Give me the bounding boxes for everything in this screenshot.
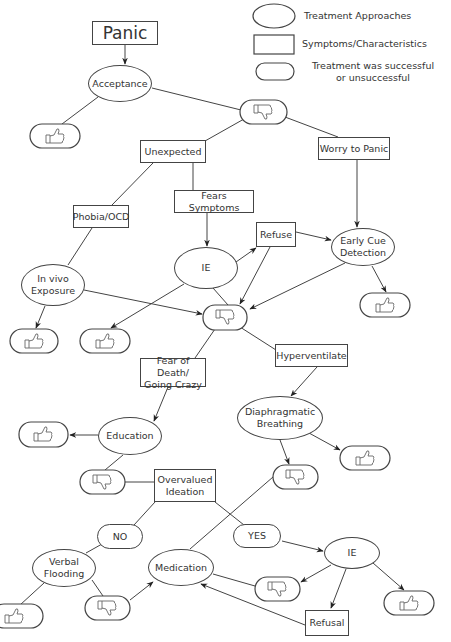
outcome-verbal-up bbox=[0, 604, 43, 628]
edge-ie-up bbox=[111, 284, 184, 328]
node-overvalued-ideation: Overvalued Ideation bbox=[154, 469, 216, 502]
node-refusal: Refusal bbox=[305, 610, 349, 636]
legend-label-symptoms: Symptoms/Characteristics bbox=[302, 38, 427, 50]
node-fears-symptoms: Fears Symptoms bbox=[174, 190, 254, 213]
outcome-acc-up bbox=[30, 124, 80, 148]
legend-ellipse-shape bbox=[253, 4, 295, 28]
edge-ie-middown bbox=[213, 288, 228, 305]
legend-rectangle-shape bbox=[254, 35, 294, 54]
node-yes: YES bbox=[233, 524, 281, 548]
edge-verbal-down bbox=[92, 580, 103, 596]
edge-verbal-up bbox=[20, 583, 44, 605]
outcome-acc-down bbox=[240, 100, 287, 124]
node-no: NO bbox=[97, 524, 143, 549]
node-refuse: Refuse bbox=[256, 222, 296, 247]
edge-acceptance-up bbox=[62, 97, 98, 124]
edge-overvalued-no bbox=[134, 502, 155, 525]
node-fear-of-death: Fear of Death/ Going Crazy bbox=[140, 358, 206, 387]
node-phobia-ocd: Phobia/OCD bbox=[73, 205, 129, 228]
edge-down-worry bbox=[285, 117, 338, 137]
node-education: Education bbox=[98, 417, 162, 455]
outcome-diaphragmatic-up bbox=[340, 446, 390, 470]
legend-label-outcome: Treatment was successful or unsuccessful bbox=[298, 60, 448, 84]
node-panic: Panic bbox=[92, 21, 158, 45]
edge-ie2-down bbox=[301, 565, 331, 582]
edge-phobia-invivo bbox=[68, 228, 92, 265]
node-in-vivo-exposure: In vivo Exposure bbox=[21, 264, 85, 306]
outcome-mid-down bbox=[203, 305, 247, 330]
node-medication: Medication bbox=[148, 549, 214, 586]
node-ie-top: IE bbox=[174, 247, 238, 289]
edge-ie2down-medication bbox=[213, 574, 255, 586]
edge-ie-refuse bbox=[236, 248, 256, 262]
edge-middown-hyper bbox=[240, 327, 276, 350]
edge-hyper-diaphragmatic bbox=[291, 367, 317, 396]
node-unexpected: Unexpected bbox=[140, 140, 206, 163]
legend bbox=[253, 4, 295, 80]
node-hyperventilate: Hyperventilate bbox=[275, 344, 348, 367]
outcome-earlycue-up bbox=[360, 293, 410, 317]
node-ie-bottom: IE bbox=[324, 537, 380, 569]
node-verbal-flooding: Verbal Flooding bbox=[32, 549, 96, 587]
edge-unexpected-phobia bbox=[112, 163, 153, 205]
edge-acceptance-down bbox=[152, 88, 241, 110]
outcome-ie2-down bbox=[255, 577, 300, 601]
node-early-cue-detection: Early Cue Detection bbox=[331, 228, 395, 266]
edge-vfdown-medication bbox=[130, 582, 153, 600]
edge-ie2-up bbox=[373, 563, 404, 590]
node-acceptance: Acceptance bbox=[88, 65, 152, 102]
edge-diaphragmatic-down bbox=[280, 440, 289, 464]
diagram-canvas bbox=[0, 0, 451, 642]
edge-invivo-up bbox=[36, 306, 45, 328]
edge-feardeath-education bbox=[154, 387, 168, 421]
edge-down-unexpected bbox=[205, 119, 244, 141]
edge-refuse-earlycue bbox=[296, 232, 331, 240]
outcome-education-down bbox=[80, 470, 125, 494]
node-worry-to-panic: Worry to Panic bbox=[318, 137, 390, 160]
outcome-ie2-up bbox=[384, 591, 434, 615]
outcome-invivo-up bbox=[10, 329, 58, 353]
edge-invivo-middown bbox=[84, 290, 202, 314]
node-diaphragmatic-breathing: Diaphragmatic Breathing bbox=[237, 396, 323, 440]
edge-diaphragmatic-up bbox=[309, 433, 340, 450]
edge-yes-ie bbox=[282, 541, 323, 551]
edge-education-down bbox=[105, 455, 123, 470]
outcome-verbal-down bbox=[85, 596, 130, 620]
outcome-diaphragmatic-down bbox=[273, 465, 318, 489]
legend-pill-shape bbox=[256, 63, 294, 80]
outcome-ie-up bbox=[80, 329, 130, 353]
edge-earlycue-up bbox=[372, 266, 386, 292]
edge-earlycue-middown bbox=[250, 263, 345, 309]
edge-no-verbal bbox=[86, 544, 102, 553]
outcome-education-up bbox=[19, 422, 68, 447]
edge-ie2-refusal bbox=[331, 569, 346, 608]
legend-label-treatment: Treatment Approaches bbox=[304, 10, 411, 22]
